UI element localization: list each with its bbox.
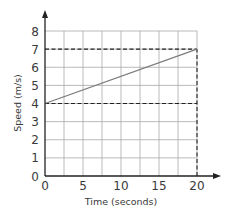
- y-tick-label: 4: [31, 97, 39, 111]
- y-axis-arrow-icon: [42, 10, 48, 18]
- y-tick-label: 0: [31, 170, 39, 184]
- x-tick-label: 15: [151, 179, 166, 193]
- x-axis-ticks: 05101520: [41, 179, 204, 193]
- speed-time-chart: 012345678 05101520 Time (seconds) Speed …: [0, 0, 227, 216]
- x-tick-label: 20: [189, 179, 204, 193]
- x-axis-arrow-icon: [213, 173, 221, 179]
- y-tick-label: 6: [31, 61, 39, 75]
- y-tick-label: 1: [31, 151, 39, 165]
- y-axis-label: Speed (m/s): [12, 74, 23, 132]
- y-axis-ticks: 012345678: [31, 25, 39, 184]
- y-tick-label: 3: [31, 115, 39, 129]
- y-tick-label: 8: [31, 25, 39, 39]
- x-tick-label: 10: [113, 179, 128, 193]
- y-tick-label: 5: [31, 79, 39, 93]
- x-tick-label: 5: [79, 179, 87, 193]
- y-tick-label: 7: [31, 43, 39, 57]
- x-tick-label: 0: [41, 179, 49, 193]
- y-tick-label: 2: [31, 133, 39, 147]
- x-axis-label: Time (seconds): [84, 196, 158, 207]
